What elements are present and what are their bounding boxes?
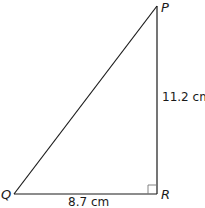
length-label-qr: 8.7 cm — [68, 195, 109, 208]
triangle-diagram: P Q R 11.2 cm 8.7 cm — [0, 0, 205, 208]
vertex-label-p: P — [161, 0, 169, 15]
right-angle-marker — [148, 185, 157, 194]
vertex-label-r: R — [161, 187, 170, 202]
side-pq — [14, 6, 157, 194]
vertex-label-q: Q — [1, 187, 11, 202]
length-label-pr: 11.2 cm — [162, 90, 205, 104]
